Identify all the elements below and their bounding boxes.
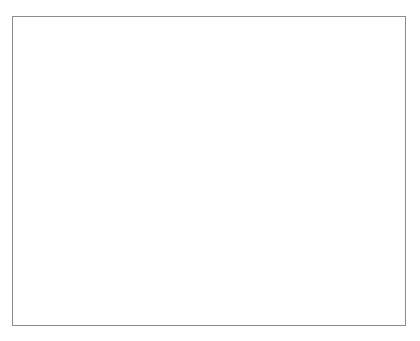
- screenshot-stage: -0.03-0.02-0.0100.010.020.030.040.050.06…: [0, 0, 420, 341]
- figure-frame: [12, 16, 406, 326]
